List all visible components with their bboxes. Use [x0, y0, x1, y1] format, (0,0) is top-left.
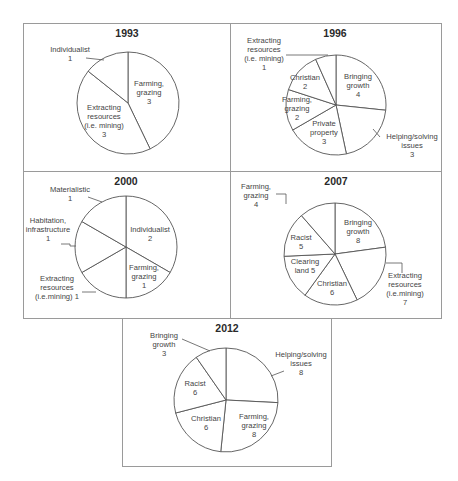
leader-line	[182, 339, 210, 351]
slice-label: Habitation,infrastructure1	[26, 216, 70, 243]
pie-chart-2012: 2012Helping/solvingissues8Farming,grazin…	[150, 322, 327, 452]
pie-chart-1993: 1993Farming,grazing3Extractingresources(…	[50, 27, 179, 154]
chart-title: 2000	[114, 175, 138, 187]
leader-line	[61, 244, 76, 246]
slice-label: Materialistic1	[50, 185, 90, 203]
slice-label: Extractingresources(i.e.mining) 1	[35, 274, 79, 301]
pie-chart-2007: 2007Bringinggrowth8Extractingresources(i…	[241, 175, 424, 307]
leader-line	[86, 58, 104, 60]
slice-label: Extractingresources(i.e.mining)7	[386, 271, 424, 307]
slice-label: Helping/solvingissues8	[275, 350, 327, 377]
chart-title: 1993	[115, 27, 139, 39]
pie-slice	[226, 348, 278, 403]
slice-label: Bringinggrowth3	[150, 331, 178, 358]
slice-label: Helping/solvingissues3	[386, 132, 438, 159]
leader-line	[276, 194, 286, 204]
chart-title: 1996	[323, 27, 347, 39]
pie-charts-svg: 1993Farming,grazing3Extractingresources(…	[0, 0, 458, 481]
leader-line	[271, 371, 284, 376]
pie-chart-1996: 1996Bringinggrowth4Helping/solvingissues…	[244, 27, 438, 159]
slice-label: Extractingresources(i.e. mining)1	[244, 36, 284, 72]
slice-label: Farming,grazing4	[241, 182, 271, 209]
leader-line	[88, 197, 102, 202]
pie-chart-2000: 2000Individualist2Farming,grazing1Extrac…	[26, 175, 177, 301]
slice-label: Individualist1	[50, 45, 91, 63]
chart-title: 2012	[215, 322, 239, 334]
chart-title: 2007	[324, 175, 348, 187]
slice-label: Clearingland 5	[291, 257, 319, 275]
